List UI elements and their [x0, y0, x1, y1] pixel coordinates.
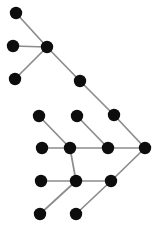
graph-node [108, 109, 120, 121]
graph-node [34, 208, 46, 220]
graph-node [9, 73, 21, 85]
graph-node [70, 208, 82, 220]
graph-node [35, 175, 47, 187]
graph-figure [0, 0, 156, 231]
graph-canvas [0, 0, 156, 231]
graph-node [7, 40, 19, 52]
graph-node [102, 142, 114, 154]
graph-node [71, 110, 83, 122]
graph-node [33, 110, 45, 122]
graph-node [64, 142, 76, 154]
graph-node [41, 41, 53, 53]
graph-node [36, 142, 48, 154]
graph-node [139, 142, 151, 154]
graph-node [70, 175, 82, 187]
graph-node [74, 75, 86, 87]
graph-node [10, 7, 22, 19]
graph-node [105, 175, 117, 187]
